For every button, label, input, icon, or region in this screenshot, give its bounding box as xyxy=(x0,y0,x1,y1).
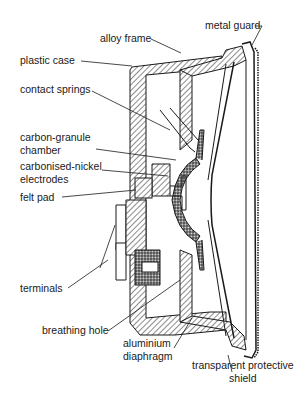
label-terminals: terminals xyxy=(20,282,63,295)
label-plastic-case: plastic case xyxy=(20,54,75,67)
label-transparent-protective-shield: transparent protective shield xyxy=(192,359,294,385)
label-contact-springs: contact springs xyxy=(20,83,91,96)
label-carbon-granule-chamber: carbon-granule chamber xyxy=(20,131,91,157)
label-metal-guard: metal guard xyxy=(205,19,260,32)
label-alloy-frame: alloy frame xyxy=(100,32,151,45)
label-felt-pad: felt pad xyxy=(20,191,54,204)
microphone-diagram: alloy frame metal guard plastic case con… xyxy=(0,0,308,400)
label-breathing-hole: breathing hole xyxy=(42,324,109,337)
label-carbonised-nickel-electrodes: carbonised-nickel electrodes xyxy=(20,160,102,186)
label-aluminium-diaphragm: aluminium diaphragm xyxy=(123,337,173,363)
